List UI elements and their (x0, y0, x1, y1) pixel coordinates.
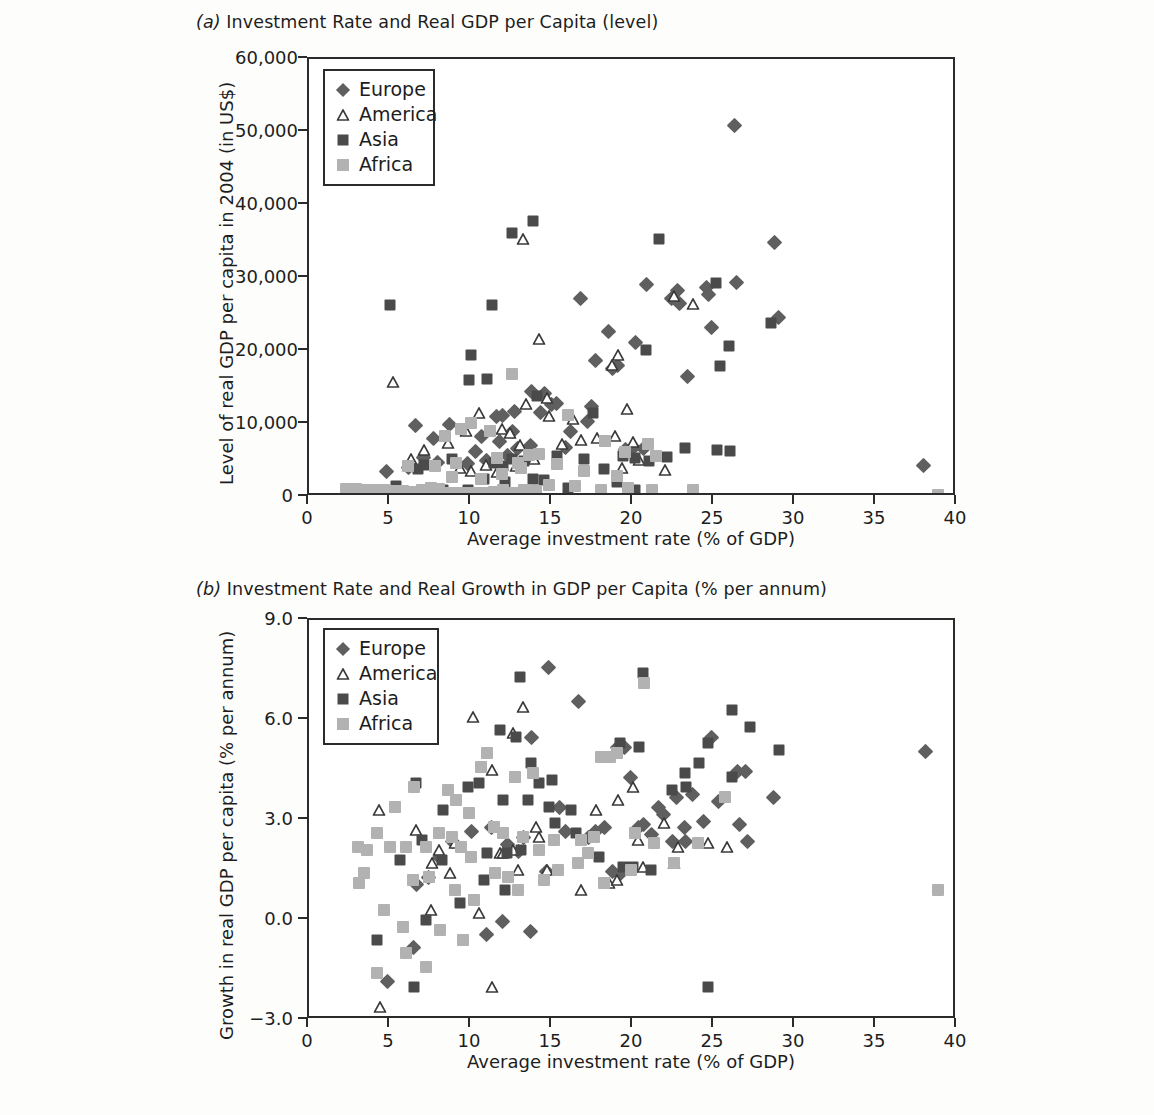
scatter-point-africa (533, 844, 545, 856)
scatter-point-asia (634, 741, 645, 752)
y-tick-label: 0.0 (235, 908, 293, 929)
scatter-point-asia (534, 778, 545, 789)
scatter-point-america (605, 359, 618, 371)
legend-item-label: Asia (359, 130, 399, 149)
y-tick-mark (298, 348, 307, 350)
y-tick-mark (298, 817, 307, 819)
scatter-point-america (503, 427, 516, 439)
scatter-point-africa (457, 934, 469, 946)
scatter-point-america (659, 464, 672, 476)
scatter-point-africa (407, 874, 419, 886)
scatter-point-africa (687, 484, 699, 493)
scatter-point-africa (543, 479, 555, 491)
legend-item-america[interactable]: America (334, 102, 419, 127)
legend-item-europe[interactable]: Europe (334, 636, 423, 661)
diamond-swatch-icon (334, 81, 352, 99)
scatter-point-africa (599, 435, 611, 447)
y-tick-label: 0 (235, 485, 293, 506)
scatter-point-africa (420, 961, 432, 973)
panel-b-legend: EuropeAmericaAsiaAfrica (323, 628, 439, 745)
scatter-point-africa (932, 884, 944, 896)
scatter-point-africa (619, 446, 631, 458)
scatter-point-asia (462, 781, 473, 792)
x-tick-label: 30 (782, 1030, 805, 1051)
legend-item-asia[interactable]: Asia (334, 127, 419, 152)
scatter-point-asia (487, 300, 498, 311)
y-tick-label: 9.0 (235, 608, 293, 629)
x-tick-mark (549, 495, 551, 504)
legend-item-america[interactable]: America (334, 661, 423, 686)
scatter-point-africa (468, 894, 480, 906)
legend-item-africa[interactable]: Africa (334, 711, 423, 736)
panel-b-ylabel: Growth in real GDP per capita (% per ann… (216, 631, 237, 1040)
scatter-point-asia (454, 898, 465, 909)
scatter-point-asia (464, 375, 475, 386)
x-tick-mark (792, 1018, 794, 1027)
y-tick-label: 40,000 (235, 193, 293, 214)
legend-item-europe[interactable]: Europe (334, 77, 419, 102)
square-light-swatch-icon (334, 156, 352, 174)
scatter-point-asia (394, 855, 405, 866)
scatter-point-europe (581, 298, 592, 309)
scatter-point-europe (487, 935, 498, 946)
scatter-point-europe (746, 771, 757, 782)
scatter-point-africa (400, 841, 412, 853)
x-tick-mark (387, 1018, 389, 1027)
x-tick-mark (711, 1018, 713, 1027)
scatter-point-europe (747, 841, 758, 852)
scatter-point-asia (653, 233, 664, 244)
scatter-point-america (516, 701, 529, 713)
x-tick-mark (792, 495, 794, 504)
legend-item-asia[interactable]: Asia (334, 686, 423, 711)
scatter-point-america (473, 907, 486, 919)
scatter-point-africa (371, 967, 383, 979)
scatter-point-africa (611, 747, 623, 759)
scatter-point-asia (679, 768, 690, 779)
scatter-point-america (667, 290, 680, 302)
scatter-point-america (686, 298, 699, 310)
scatter-point-asia (532, 391, 543, 402)
scatter-point-asia (514, 671, 525, 682)
scatter-point-asia (500, 885, 511, 896)
scatter-point-europe (736, 283, 747, 294)
scatter-point-africa (523, 449, 535, 461)
legend-item-label: Asia (359, 689, 399, 708)
scatter-point-europe (595, 360, 606, 371)
panel-b-caption: (b) Investment Rate and Real Growth in G… (196, 579, 827, 599)
scatter-point-africa (552, 864, 564, 876)
x-tick-label: 15 (539, 507, 562, 528)
scatter-point-europe (532, 738, 543, 749)
y-tick-mark (298, 617, 307, 619)
x-tick-label: 0 (301, 507, 312, 528)
x-tick-mark (306, 495, 308, 504)
scatter-point-africa (489, 867, 501, 879)
scatter-point-asia (438, 805, 449, 816)
legend-item-label: America (359, 664, 437, 683)
panel-a-ylabel: Level of real GDP per capita in 2004 (in… (216, 82, 237, 485)
legend-item-label: Europe (359, 80, 426, 99)
scatter-point-africa (371, 827, 383, 839)
scatter-point-asia (516, 845, 527, 856)
scatter-point-america (529, 821, 542, 833)
scatter-point-asia (712, 444, 723, 455)
scatter-point-america (418, 444, 431, 456)
legend-item-africa[interactable]: Africa (334, 152, 419, 177)
scatter-point-africa (457, 487, 469, 493)
scatter-point-asia (527, 474, 538, 485)
x-tick-mark (630, 1018, 632, 1027)
scatter-point-europe (579, 701, 590, 712)
scatter-point-asia (579, 454, 590, 465)
scatter-point-europe (709, 294, 720, 305)
scatter-point-africa (475, 761, 487, 773)
scatter-point-asia (765, 317, 776, 328)
scatter-point-asia (506, 228, 517, 239)
scatter-point-asia (482, 848, 493, 859)
scatter-point-europe (605, 828, 616, 839)
scatter-point-asia (662, 451, 673, 462)
scatter-point-africa (450, 457, 462, 469)
panel-a-xlabel: Average investment rate (% of GDP) (307, 528, 955, 549)
scatter-point-asia (645, 865, 656, 876)
scatter-point-africa (497, 827, 509, 839)
scatter-point-africa (507, 487, 519, 493)
scatter-point-europe (704, 821, 715, 832)
